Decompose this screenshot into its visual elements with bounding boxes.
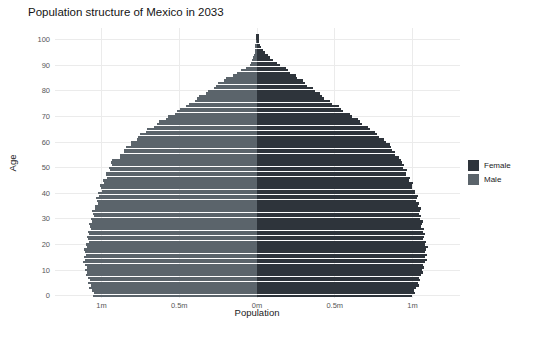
male-bar: [197, 97, 257, 99]
female-bar: [257, 192, 415, 194]
male-bar: [92, 220, 257, 222]
female-bar: [257, 259, 427, 261]
population-pyramid-figure: Population structure of Mexico in 2033 A…: [0, 0, 534, 341]
female-bar: [257, 184, 412, 186]
y-tick-label: 80: [22, 86, 50, 95]
female-bar: [257, 182, 413, 184]
male-bar: [177, 110, 257, 112]
male-bar: [112, 159, 257, 161]
female-bar: [257, 243, 425, 245]
male-bar: [224, 79, 257, 81]
male-bar: [91, 218, 257, 220]
male-bar: [95, 205, 257, 207]
female-bar: [257, 231, 423, 233]
male-bar: [208, 90, 257, 92]
female-bar: [257, 223, 422, 225]
male-bar: [94, 292, 257, 294]
x-tick-label: 1m: [407, 301, 417, 310]
male-bar: [107, 177, 257, 179]
male-bar: [255, 46, 257, 48]
male-bar: [175, 113, 257, 115]
male-bar: [186, 105, 257, 107]
male-bar: [138, 136, 257, 138]
male-bar: [246, 67, 257, 69]
male-bar: [89, 241, 257, 243]
y-tick-label: 10: [22, 266, 50, 275]
legend-label-male: Male: [479, 175, 501, 184]
male-bar: [87, 246, 257, 248]
x-axis-title: Population: [235, 307, 280, 318]
female-bar: [257, 44, 260, 46]
male-bar: [109, 167, 257, 169]
female-bar: [257, 202, 419, 204]
female-bar: [257, 51, 265, 53]
male-bar: [126, 146, 257, 148]
male-bar: [124, 149, 257, 151]
male-bar: [91, 284, 257, 286]
male-bar: [166, 118, 257, 120]
male-bar: [99, 195, 257, 197]
y-tick-label: 70: [22, 112, 50, 121]
male-bar: [180, 108, 257, 110]
male-bar: [87, 236, 257, 238]
female-bar: [257, 97, 324, 99]
female-bar: [257, 289, 414, 291]
male-bar: [254, 54, 257, 56]
female-bar: [257, 200, 416, 202]
female-bar: [257, 62, 277, 64]
male-bar: [88, 231, 257, 233]
female-bar: [257, 251, 425, 253]
male-bar: [89, 287, 257, 289]
female-bar: [257, 110, 343, 112]
female-bar: [257, 167, 403, 169]
female-bar: [257, 187, 412, 189]
female-bar: [257, 67, 286, 69]
female-bar: [257, 279, 420, 281]
female-bar: [257, 72, 290, 74]
male-bar: [250, 64, 257, 66]
female-bar: [257, 218, 420, 220]
male-bar: [88, 238, 257, 240]
female-bar: [257, 295, 412, 297]
female-bar: [257, 64, 280, 66]
male-bar: [195, 100, 257, 102]
male-bar: [90, 225, 257, 227]
female-bar: [257, 95, 322, 97]
male-bar: [214, 87, 257, 89]
female-bar: [257, 59, 273, 61]
legend-entry-female: Female: [468, 160, 511, 171]
female-bar: [257, 74, 296, 76]
male-bar: [85, 259, 257, 261]
female-bar: [257, 287, 416, 289]
male-bar: [251, 62, 257, 64]
female-bar: [257, 190, 415, 192]
male-bar: [100, 184, 257, 186]
male-bar: [106, 174, 257, 176]
female-bar: [257, 149, 392, 151]
female-bar: [257, 151, 395, 153]
male-bar: [255, 44, 257, 46]
female-bar: [257, 141, 386, 143]
male-bar: [87, 271, 257, 273]
male-bar: [159, 120, 257, 122]
female-bar: [257, 220, 423, 222]
x-tick-label: 0.5m: [171, 301, 188, 310]
male-bar: [154, 126, 257, 128]
female-bar: [257, 172, 406, 174]
female-bar: [257, 154, 395, 156]
female-bar: [257, 123, 362, 125]
female-bar: [257, 246, 428, 248]
pyramid-svg: [55, 28, 460, 298]
female-bar: [257, 215, 421, 217]
y-tick-label: 90: [22, 61, 50, 70]
female-bar: [257, 274, 421, 276]
female-bar: [257, 138, 384, 140]
male-bar: [83, 261, 257, 263]
female-bar: [257, 54, 268, 56]
male-bar: [206, 92, 257, 94]
male-bar: [86, 274, 257, 276]
male-bar: [85, 264, 257, 266]
female-bar: [257, 136, 379, 138]
female-bar: [257, 82, 305, 84]
female-bar: [257, 271, 423, 273]
